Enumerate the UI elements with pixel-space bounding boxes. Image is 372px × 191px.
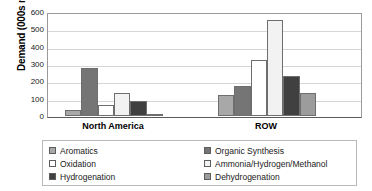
bar: [81, 68, 97, 116]
bar: [300, 93, 316, 116]
bar: [147, 114, 163, 116]
y-tick-label: 200: [18, 78, 44, 86]
plot-area-wrapper: [47, 13, 362, 118]
y-tick-label: 100: [18, 96, 44, 104]
chart-legend: AromaticsOrganic SynthesisOxidationAmmon…: [42, 140, 357, 186]
bar: [283, 76, 299, 116]
legend-swatch-icon: [204, 147, 211, 154]
y-tick-label: 400: [18, 44, 44, 52]
bar: [234, 86, 250, 116]
legend-grid: AromaticsOrganic SynthesisOxidationAmmon…: [43, 144, 356, 183]
legend-item-label: Ammonia/Hydrogen/Methanol: [215, 159, 327, 169]
bar: [267, 20, 283, 116]
y-tick-label: 0: [18, 113, 44, 121]
bar-group: [65, 12, 163, 116]
legend-item: Aromatics: [49, 144, 204, 157]
legend-item-label: Oxidation: [60, 159, 96, 169]
legend-swatch-icon: [204, 160, 211, 167]
legend-item-label: Hydrogenation: [60, 172, 115, 182]
legend-item: Ammonia/Hydrogen/Methanol: [204, 157, 364, 170]
category-label: ROW: [217, 120, 315, 132]
legend-item-label: Dehydrogenation: [215, 172, 280, 182]
legend-item: Hydrogenation: [49, 170, 204, 183]
bars-layer: [48, 14, 361, 117]
bar: [114, 93, 130, 116]
legend-item-label: Organic Synthesis: [215, 146, 284, 156]
legend-swatch-icon: [204, 173, 211, 180]
legend-item: Oxidation: [49, 157, 204, 170]
legend-swatch-icon: [49, 173, 56, 180]
bar: [251, 60, 267, 116]
category-axis-labels: North AmericaROW: [47, 120, 362, 134]
y-axis-ticks: 0100200300400500600: [18, 13, 44, 118]
y-tick-label: 500: [18, 26, 44, 34]
legend-item-label: Aromatics: [60, 146, 98, 156]
bar: [65, 110, 81, 116]
bar-group: [218, 12, 316, 116]
bar: [98, 105, 114, 116]
y-tick-label: 600: [18, 9, 44, 17]
legend-swatch-icon: [49, 160, 56, 167]
plot-area: [47, 13, 362, 118]
legend-item: Organic Synthesis: [204, 144, 364, 157]
category-label: North America: [64, 120, 162, 132]
bar: [218, 95, 234, 116]
legend-swatch-icon: [49, 147, 56, 154]
bar: [130, 101, 146, 116]
legend-item: Dehydrogenation: [204, 170, 364, 183]
y-tick-label: 300: [18, 61, 44, 69]
bar-chart: Demand (000s mt) 0100200300400500600 Nor…: [0, 0, 372, 191]
